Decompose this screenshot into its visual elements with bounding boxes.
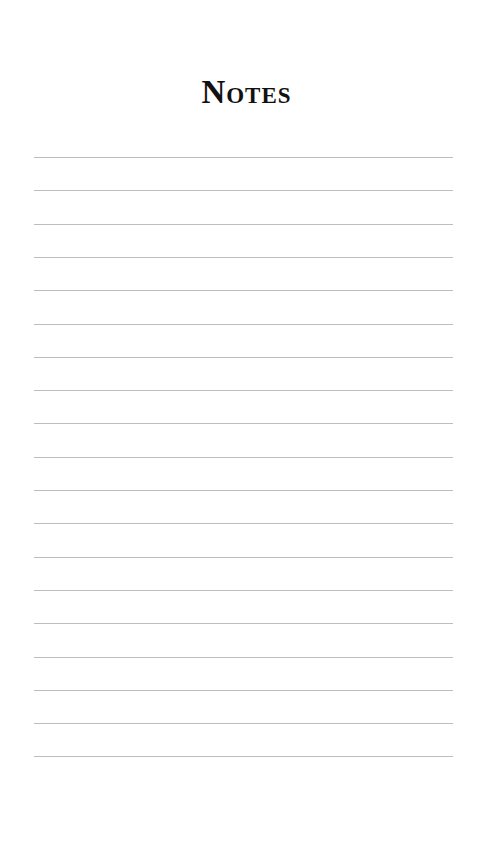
- note-line: [34, 523, 453, 524]
- note-line: [34, 423, 453, 424]
- note-line: [34, 490, 453, 491]
- note-line: [34, 357, 453, 358]
- note-line: [34, 257, 453, 258]
- note-line: [34, 623, 453, 624]
- note-line: [34, 390, 453, 391]
- note-line: [34, 324, 453, 325]
- note-line: [34, 590, 453, 591]
- note-line: [34, 157, 453, 158]
- ruled-lines: [34, 0, 453, 858]
- note-line: [34, 457, 453, 458]
- note-line: [34, 290, 453, 291]
- note-line: [34, 557, 453, 558]
- note-line: [34, 756, 453, 757]
- note-line: [34, 224, 453, 225]
- note-line: [34, 190, 453, 191]
- note-line: [34, 723, 453, 724]
- note-line: [34, 657, 453, 658]
- note-line: [34, 690, 453, 691]
